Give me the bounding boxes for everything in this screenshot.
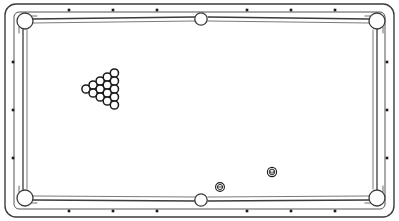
sight-dot-left-1	[12, 61, 15, 64]
rack-ball-11	[110, 69, 118, 77]
pocket-bottom-right-corner	[369, 190, 385, 206]
sight-dot-top-2	[112, 9, 115, 12]
sight-dot-right-2	[386, 109, 389, 112]
pocket-top-left-corner	[17, 13, 33, 29]
sight-dot-top-3	[156, 9, 159, 12]
canvas-background	[0, 0, 399, 221]
sight-dot-left-3	[12, 157, 15, 160]
rack-ball-12	[110, 77, 118, 85]
sight-dot-bottom-2	[112, 210, 115, 213]
sight-dot-bottom-4	[246, 210, 249, 213]
sight-dot-left-2	[12, 109, 15, 112]
sight-dot-top-1	[68, 9, 71, 12]
rack-ball-13	[110, 85, 118, 93]
rack-ball-15	[110, 101, 118, 109]
pool-table-diagram: Top view line drawing of a pool table wi…	[0, 0, 399, 221]
sight-dot-bottom-6	[334, 210, 337, 213]
sight-dot-bottom-5	[290, 210, 293, 213]
sight-dot-bottom-1	[68, 210, 71, 213]
sight-dot-top-4	[246, 9, 249, 12]
pocket-top-right-corner	[369, 13, 385, 29]
table-canvas	[0, 0, 399, 221]
pocket-bottom-left-corner	[17, 190, 33, 206]
pocket-bottom-side	[195, 194, 207, 206]
sight-dot-top-6	[334, 9, 337, 12]
sight-dot-right-3	[386, 157, 389, 160]
sight-dot-right-1	[386, 61, 389, 64]
sight-dot-top-5	[290, 9, 293, 12]
rack-ball-14	[110, 93, 118, 101]
sight-dot-bottom-3	[156, 210, 159, 213]
pocket-top-side	[195, 13, 207, 25]
